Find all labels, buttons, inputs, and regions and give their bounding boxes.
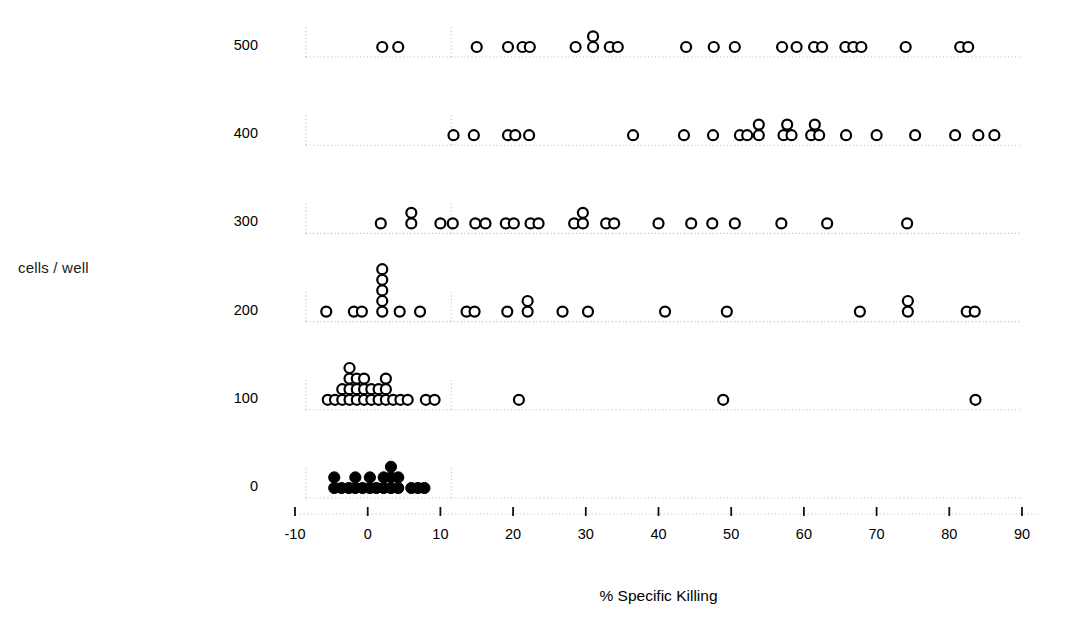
x-tick-label-60: 60 [774, 526, 834, 542]
series-100-cells-per-well [323, 363, 981, 405]
data-point [973, 130, 983, 140]
data-point [480, 218, 490, 228]
data-point [470, 218, 480, 228]
data-point [660, 307, 670, 317]
data-point [321, 307, 331, 317]
x-tick-label-40: 40 [629, 526, 689, 542]
y-tick-label-0: 0 [250, 478, 258, 494]
data-point [469, 130, 479, 140]
row-gridline-100 [306, 378, 1022, 410]
data-point [571, 42, 581, 52]
data-point [448, 130, 458, 140]
data-point [902, 218, 912, 228]
data-point [681, 42, 691, 52]
series-300-cells-per-well [376, 208, 912, 229]
x-tick-label-90: 90 [992, 526, 1052, 542]
data-point [841, 130, 851, 140]
data-point [742, 130, 752, 140]
x-tick-label-30: 30 [556, 526, 616, 542]
data-point [406, 208, 416, 218]
data-point [679, 130, 689, 140]
data-point [810, 120, 820, 130]
data-point [588, 42, 598, 52]
data-point [970, 395, 980, 405]
data-point [754, 130, 764, 140]
data-point [377, 264, 387, 274]
x-tick-label-50: 50 [701, 526, 761, 542]
data-point [910, 130, 920, 140]
data-point [722, 307, 732, 317]
data-point [510, 130, 520, 140]
data-point [329, 472, 340, 483]
x-tick-label-20: 20 [483, 526, 543, 542]
series-0-cells-per-well [329, 461, 430, 493]
data-point [950, 130, 960, 140]
data-point [502, 307, 512, 317]
data-point [654, 218, 664, 228]
data-point [583, 307, 593, 317]
data-point [381, 384, 391, 394]
data-point [377, 275, 387, 285]
data-point [364, 472, 375, 483]
data-point [448, 218, 458, 228]
x-axis-title: % Specific Killing [509, 587, 809, 605]
x-tick-label-80: 80 [919, 526, 979, 542]
data-point [419, 482, 430, 493]
data-point [903, 307, 913, 317]
data-point [963, 42, 973, 52]
data-point [377, 42, 387, 52]
dot-plot-figure: 0100200300400500-100102030405060708090ce… [0, 0, 1067, 631]
data-point [718, 395, 728, 405]
data-point [628, 130, 638, 140]
series-200-cells-per-well [321, 264, 979, 316]
data-point [872, 130, 882, 140]
data-point [403, 395, 413, 405]
x-axis [295, 507, 1040, 516]
data-point [989, 130, 999, 140]
x-tick-label-0: 0 [338, 526, 398, 542]
data-point [523, 307, 533, 317]
data-point [435, 218, 445, 228]
data-point [817, 42, 827, 52]
data-point [613, 42, 623, 52]
series-400-cells-per-well [448, 120, 999, 141]
data-point [707, 218, 717, 228]
data-point [534, 218, 544, 228]
data-point [430, 395, 440, 405]
data-point [609, 218, 619, 228]
data-point [357, 307, 367, 317]
data-point [523, 296, 533, 306]
data-point [558, 307, 568, 317]
data-point [686, 218, 696, 228]
data-point [395, 307, 405, 317]
data-point [406, 218, 416, 228]
data-point [822, 218, 832, 228]
data-point [777, 42, 787, 52]
y-axis-title: cells / well [18, 259, 89, 276]
x-tick-label--10: -10 [265, 526, 325, 542]
data-point [514, 395, 524, 405]
y-tick-label-400: 400 [234, 125, 258, 141]
data-point [782, 120, 792, 130]
data-point [385, 461, 396, 472]
row-gridline-500 [306, 25, 1022, 57]
data-point [730, 42, 740, 52]
data-point [503, 42, 513, 52]
data-point [776, 218, 786, 228]
y-tick-label-500: 500 [234, 37, 258, 53]
data-point [708, 130, 718, 140]
data-point [787, 130, 797, 140]
data-point [792, 42, 802, 52]
data-point [901, 42, 911, 52]
data-point [814, 130, 824, 140]
data-point [754, 120, 764, 130]
data-point [509, 218, 519, 228]
data-point [578, 218, 588, 228]
data-point [377, 285, 387, 295]
data-point [730, 218, 740, 228]
data-point [709, 42, 719, 52]
data-point [377, 307, 387, 317]
data-point [377, 296, 387, 306]
y-tick-label-300: 300 [234, 213, 258, 229]
y-tick-label-200: 200 [234, 302, 258, 318]
